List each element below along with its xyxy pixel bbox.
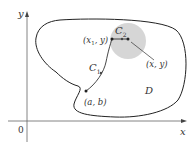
- x-axis-label: x: [180, 126, 186, 137]
- point-x-y: [127, 38, 130, 41]
- point-a-b: [85, 90, 88, 93]
- y-axis-label: y: [17, 8, 24, 19]
- point-x1-y: [111, 38, 114, 41]
- x-axis-arrow-icon: [181, 119, 187, 123]
- label-c1: C1: [89, 62, 100, 75]
- label-x1-y: (x1, y): [83, 35, 108, 46]
- origin-label: 0: [18, 125, 24, 135]
- c2-midpoint-marker: [121, 38, 123, 40]
- diagram-canvas: y x 0 C2 (x1, y) (x, y) C1 (a, b) D: [0, 0, 193, 156]
- label-region-d: D: [144, 85, 153, 96]
- y-axis-arrow-icon: [25, 11, 29, 17]
- label-a-b: (a, b): [84, 97, 107, 107]
- label-x-y: (x, y): [146, 59, 168, 69]
